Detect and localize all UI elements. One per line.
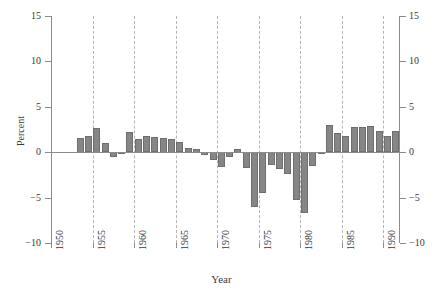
bar [251, 152, 258, 207]
x-tick-label: 1980 [304, 230, 314, 250]
bar [259, 152, 266, 193]
bar [151, 137, 158, 152]
bar [210, 152, 217, 160]
bar-chart: 151510105500−5−5−10−10 19501955196019651… [0, 0, 443, 293]
y-tick-right [400, 61, 406, 62]
y-tick-label-right: 15 [409, 11, 419, 21]
bar [102, 143, 109, 152]
gridline-x [217, 16, 218, 243]
x-tick-label: 1975 [263, 230, 273, 250]
x-axis-title: Year [0, 274, 443, 285]
x-tick [176, 243, 177, 248]
gridline-x [383, 16, 384, 243]
bar [301, 152, 308, 213]
x-tick-label: 1960 [138, 230, 148, 250]
y-tick-label-right: −5 [409, 193, 420, 203]
bar [359, 127, 366, 152]
y-axis-title: Percent [16, 116, 26, 146]
bar [168, 139, 175, 153]
bar [160, 138, 167, 153]
bar [93, 128, 100, 153]
x-tick [51, 243, 52, 248]
bar [243, 152, 250, 168]
bar [126, 132, 133, 152]
bar [176, 142, 183, 152]
y-tick-right [400, 243, 406, 244]
bar [268, 152, 275, 165]
bar [293, 152, 300, 200]
bar [284, 152, 291, 174]
gridline-x [259, 16, 260, 243]
bar [351, 127, 358, 152]
x-tick-label: 1990 [387, 230, 397, 250]
gridline-x [134, 16, 135, 243]
y-tick-right [400, 152, 406, 153]
bar [309, 152, 316, 166]
y-tick-label-left: 0 [36, 147, 41, 157]
x-tick-label: 1965 [180, 230, 190, 250]
gridline-x [176, 16, 177, 243]
y-tick-label-right: 0 [409, 147, 414, 157]
y-tick-right [400, 107, 406, 108]
y-tick-right [400, 198, 406, 199]
zero-baseline [51, 152, 400, 153]
y-tick-label-right: 5 [409, 102, 414, 112]
plot-area [51, 16, 400, 243]
bar [135, 139, 142, 153]
left-axis-spine [51, 16, 52, 243]
bar [392, 131, 399, 152]
y-tick-label-right: 10 [409, 56, 419, 66]
y-tick-label-left: −10 [25, 238, 41, 248]
y-tick-left [45, 61, 51, 62]
bar [384, 136, 391, 152]
y-tick-left [45, 198, 51, 199]
y-tick-label-left: 10 [31, 56, 41, 66]
y-tick-left [45, 16, 51, 17]
x-tick [300, 243, 301, 248]
bar [334, 133, 341, 152]
bar [367, 126, 374, 152]
x-tick-label: 1950 [55, 230, 65, 250]
bar [326, 125, 333, 152]
x-tick [342, 243, 343, 248]
y-tick-label-right: −10 [409, 238, 425, 248]
x-tick-label: 1970 [221, 230, 231, 250]
gridline-x [342, 16, 343, 243]
x-tick-label: 1955 [97, 230, 107, 250]
x-tick [383, 243, 384, 248]
x-tick [217, 243, 218, 248]
bar [85, 136, 92, 152]
y-tick-label-left: −5 [30, 193, 41, 203]
y-tick-right [400, 16, 406, 17]
bar [143, 136, 150, 152]
right-axis-spine [399, 16, 400, 243]
bar [77, 138, 84, 153]
x-tick [134, 243, 135, 248]
x-tick [93, 243, 94, 248]
y-tick-left [45, 107, 51, 108]
bar [218, 152, 225, 167]
y-tick-label-left: 5 [36, 102, 41, 112]
x-tick [259, 243, 260, 248]
bar [342, 136, 349, 152]
y-tick-label-left: 15 [31, 11, 41, 21]
x-tick-label: 1985 [346, 230, 356, 250]
bar [276, 152, 283, 169]
bar [376, 131, 383, 152]
